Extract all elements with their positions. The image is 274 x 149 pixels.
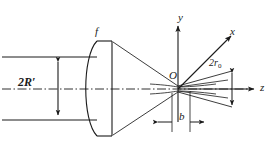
plano-convex-lens [86,41,112,136]
waist-diameter-subscript: 0 [218,62,222,70]
waist-diameter-label: 2r0 [209,58,221,68]
input-beam-diameter-text: 2R [18,75,32,89]
focal-length-label: f [95,26,98,37]
optics-ray-diagram: f y x z O b 2R′ 2r0 [0,0,274,149]
input-beam-diameter-label: 2R′ [18,76,35,88]
waist-diameter-text: 2r [209,57,218,68]
confocal-parameter-label: b [179,111,185,122]
diagram-canvas [0,0,274,149]
origin-label: O [169,70,177,81]
input-beam-diameter-prime: ′ [32,75,35,89]
z-axis-label: z [260,82,264,93]
y-axis-label: y [178,12,183,23]
incoming-rays [2,57,97,120]
x-axis-label: x [230,26,235,37]
converging-beam-cone [113,42,178,135]
